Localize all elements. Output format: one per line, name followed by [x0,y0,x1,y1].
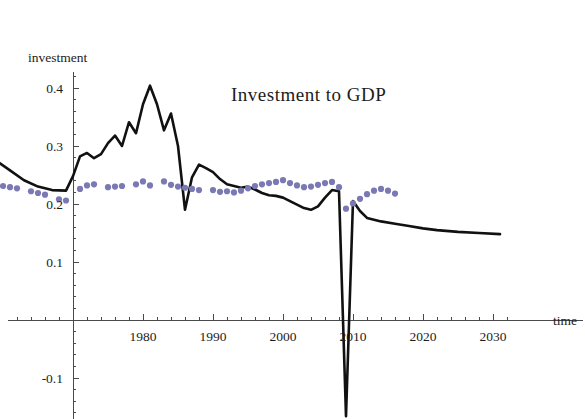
tick-marks-layer [17,76,507,412]
data-point [392,190,398,196]
data-point [252,183,258,189]
x-tick-label: 2020 [410,329,437,344]
y-tick-label: 0.3 [46,139,63,154]
data-point [322,180,328,186]
x-tick-label: 1980 [130,329,157,344]
data-point [308,184,314,190]
x-tick-label: 2030 [480,329,507,344]
data-point [14,185,20,191]
data-point [336,184,342,190]
data-point [259,181,265,187]
data-point [294,182,300,188]
data-point [112,184,118,190]
data-point [364,191,370,197]
data-point [280,177,286,183]
data-point [357,196,363,202]
data-point [133,181,139,187]
data-point [343,206,349,212]
data-point [350,200,356,206]
data-point [196,187,202,193]
y-tick-label: 0.1 [46,255,63,270]
data-point [224,188,230,194]
axes-layer [8,72,583,419]
data-point [329,179,335,185]
data-point [217,189,223,195]
data-point [378,186,384,192]
data-point [175,184,181,190]
data-point [105,184,111,190]
data-point [161,178,167,184]
x-axis-title: time [553,313,577,328]
x-tick-label: 2000 [270,329,297,344]
data-point [182,185,188,191]
data-point [266,180,272,186]
data-point [273,179,279,185]
data-point [287,180,293,186]
data-point [189,186,195,192]
data-point [315,182,321,188]
data-point [371,188,377,194]
tick-labels-layer: 1980199020002010202020300.40.30.20.1-0.1 [42,81,507,386]
y-axis-title: investment [28,50,87,65]
data-point [0,183,6,189]
data-point [385,188,391,194]
data-point [63,197,69,203]
data-point [210,187,216,193]
data-point [238,188,244,194]
data-point [168,182,174,188]
data-point [77,186,83,192]
y-tick-label: -0.1 [42,371,63,386]
chart-canvas: 1980199020002010202020300.40.30.20.1-0.1… [0,0,585,419]
investment-to-gdp-chart: 1980199020002010202020300.40.30.20.1-0.1… [0,0,585,419]
data-point [7,184,13,190]
x-tick-label: 2010 [340,329,367,344]
data-point [119,183,125,189]
y-tick-label: 0.2 [46,197,63,212]
data-point [35,190,41,196]
data-point [245,185,251,191]
data-point [147,182,153,188]
data-point [301,184,307,190]
data-point [231,189,237,195]
data-point [28,188,34,194]
y-tick-label: 0.4 [46,81,63,96]
x-tick-label: 1990 [200,329,227,344]
data-point [84,182,90,188]
data-point [140,178,146,184]
data-point [91,181,97,187]
chart-title: Investment to GDP [231,84,386,105]
